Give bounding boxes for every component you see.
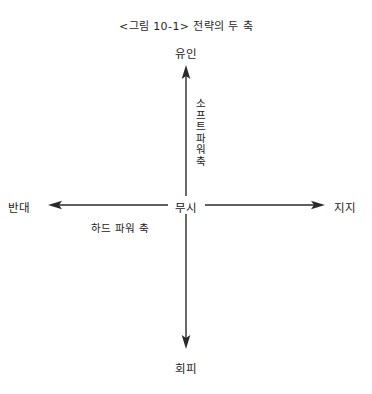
vertical-axis-label: 소프트 파워 축 <box>193 98 208 168</box>
figure-container: <그림 10-1> 전략의 두 축 유인 회피 반대 지지 무시 하드 파워 축… <box>0 0 372 394</box>
axis-end-label-down: 회피 <box>0 360 372 376</box>
axis-end-label-up: 유인 <box>0 45 372 61</box>
horizontal-axis-label: 하드 파워 축 <box>72 220 168 235</box>
origin-label: 무시 <box>0 199 372 215</box>
